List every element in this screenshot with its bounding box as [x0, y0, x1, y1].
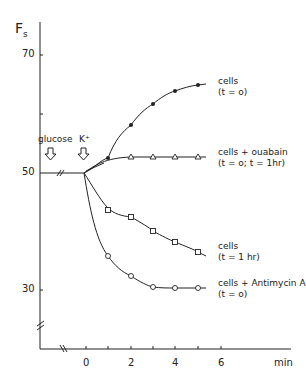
series-antimycin-markers — [106, 254, 201, 291]
legend-cells-t1hr-condition: (t = 1 hr) — [218, 252, 260, 263]
y-axis-label: Fs — [15, 20, 28, 39]
legend-ouabain: cells + ouabain (t = o; t = 1hr) — [218, 147, 288, 169]
legend-cells-t0-name: cells — [218, 76, 247, 87]
chart-canvas — [0, 0, 306, 384]
glucose-annotation: glucose — [38, 134, 73, 145]
y-tick-30: 30 — [22, 283, 35, 294]
y-axis-symbol: F — [15, 20, 23, 36]
legend-cells-t0-condition: (t = o) — [218, 87, 247, 98]
y-tick-70: 70 — [22, 48, 35, 59]
x-tick-4: 4 — [172, 357, 178, 368]
arrow-icons — [45, 148, 89, 160]
legend-ouabain-name: cells + ouabain — [218, 147, 288, 158]
legend-antimycin: cells + Antimycin A (t = o) — [218, 278, 306, 300]
y-tick-50: 50 — [22, 166, 35, 177]
x-tick-0: 0 — [83, 357, 89, 368]
x-axis-unit: min — [274, 357, 293, 368]
series-cells-t0-markers — [106, 83, 200, 160]
legend-antimycin-condition: (t = o) — [218, 289, 306, 300]
axes — [37, 22, 291, 352]
legend-cells-t1hr: cells (t = 1 hr) — [218, 241, 260, 263]
baseline — [40, 170, 84, 176]
x-tick-2: 2 — [128, 357, 134, 368]
glucose-arrow-icon — [45, 148, 56, 160]
legend-antimycin-name: cells + Antimycin A — [218, 278, 306, 289]
k-annotation: K⁺ — [79, 134, 90, 145]
y-axis-subscript: s — [23, 29, 28, 39]
legend-ouabain-condition: (t = o; t = 1hr) — [218, 158, 288, 169]
legend-cells-t1hr-name: cells — [218, 241, 260, 252]
curves — [84, 84, 206, 288]
legend-cells-t0: cells (t = o) — [218, 76, 247, 98]
x-tick-6: 6 — [218, 357, 224, 368]
k-arrow-icon — [78, 148, 89, 160]
